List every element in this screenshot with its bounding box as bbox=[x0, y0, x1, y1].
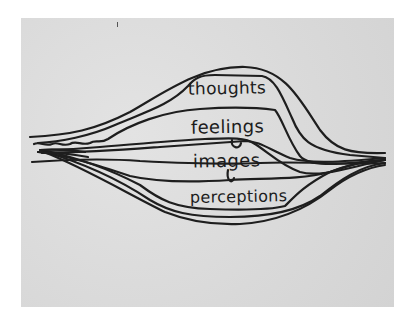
label-thoughts: thoughts bbox=[188, 79, 266, 97]
label-perceptions: perceptions bbox=[190, 188, 288, 206]
label-images: images bbox=[193, 151, 261, 170]
label-feelings: feelings bbox=[191, 117, 264, 136]
